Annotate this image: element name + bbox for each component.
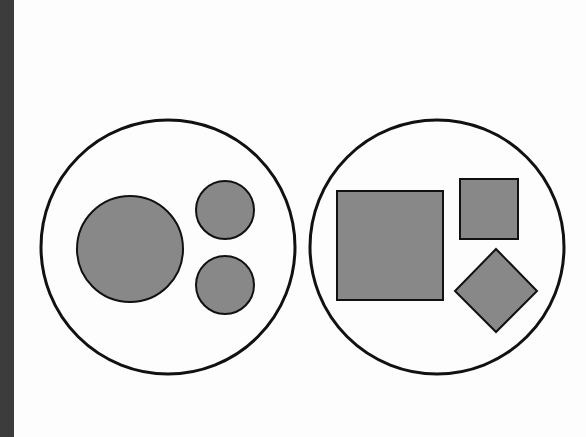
- small-circle-bottom: [196, 256, 254, 314]
- small-square: [460, 179, 518, 239]
- squares-group: [310, 120, 564, 374]
- large-square: [337, 191, 443, 300]
- large-circle: [77, 196, 183, 302]
- diagram-canvas: [0, 0, 586, 437]
- diamond: [455, 249, 537, 332]
- small-circle-top: [196, 181, 254, 239]
- circles-group: [41, 120, 295, 374]
